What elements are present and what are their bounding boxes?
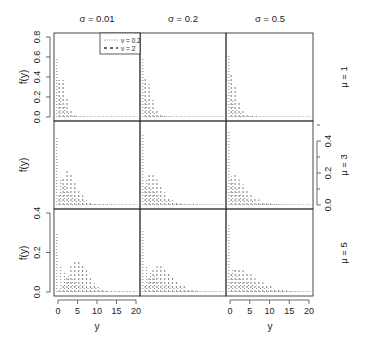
x-axis-col-1: 05101520 [55,300,141,316]
panel-mu-1-sigma-0.5 [226,33,313,121]
row-strip-mu-3: μ = 3 [338,154,349,176]
x-axis-col-3: 05101520 [227,300,314,316]
y-axis-title-row-1: f(y) [18,70,29,84]
column-strip-labels: σ = 0.01 σ = 0.2 σ = 0.5 [79,13,285,24]
panel-mu-3-sigma-0.2 [140,121,226,209]
panel-mu-3-sigma-0.5 [226,121,313,209]
panels [54,33,313,296]
x-axis-titles: y y [95,321,273,332]
legend: ν = 0.2 ν = 2 [100,33,141,54]
y-axis-title-row-2: f(y) [18,158,29,172]
axes: 0.00.20.40.60.80.00.20.40.00.20.40510152… [32,31,333,316]
panel-mu-1-sigma-0.2 [140,33,226,121]
y-tick-label: 0.0 [32,111,42,124]
legend-label-nu-0.2: ν = 0.2 [121,37,141,44]
x-tick-label: 15 [111,306,121,316]
y-axis-row-1: 0.00.20.40.60.8 [32,31,50,124]
legend-label-nu-2: ν = 2 [121,45,136,52]
column-strip-sigma-0.2: σ = 0.2 [168,13,198,24]
x-tick-label: 0 [227,306,232,316]
x-tick-label: 5 [75,306,80,316]
y-tick-label: 0.4 [323,135,333,148]
y-axis-row-2: 0.00.20.4 [317,125,333,211]
y-axis-title-row-3: f(y) [18,246,29,260]
panel-mu-5-sigma-0.5 [226,209,313,296]
x-tick-label: 15 [284,306,294,316]
panel-mu-5-sigma-0.01 [54,209,140,296]
x-tick-label: 5 [247,306,252,316]
x-axis-title-left: y [95,321,100,332]
panel-mu-3-sigma-0.01 [54,121,140,209]
y-tick-label: 0.2 [323,167,333,180]
row-strip-mu-1: μ = 1 [338,66,349,88]
x-tick-label: 10 [264,306,274,316]
y-tick-label: 0.8 [32,31,42,44]
x-tick-label: 10 [92,306,102,316]
y-tick-label: 0.0 [323,199,333,212]
x-tick-label: 20 [131,306,141,316]
y-tick-label: 0.4 [32,71,42,84]
y-axis-titles: f(y) f(y) f(y) [18,70,29,260]
x-axis-title-right: y [268,321,273,332]
row-strip-labels: μ = 1 μ = 3 μ = 5 [338,66,349,264]
y-axis-row-3: 0.00.20.4 [32,207,50,299]
y-tick-label: 0.2 [32,246,42,259]
column-strip-sigma-0.01: σ = 0.01 [79,13,114,24]
column-strip-sigma-0.5: σ = 0.5 [255,13,285,24]
panel-mu-5-sigma-0.2 [140,209,226,296]
row-strip-mu-5: μ = 5 [338,242,349,264]
x-tick-label: 0 [55,306,60,316]
y-tick-label: 0.4 [32,207,42,220]
y-tick-label: 0.6 [32,51,42,64]
y-tick-label: 0.0 [32,286,42,299]
y-tick-label: 0.2 [32,91,42,104]
panel-chart: σ = 0.01 σ = 0.2 σ = 0.5 μ = 1 μ = 3 μ =… [0,0,365,346]
x-tick-label: 20 [304,306,314,316]
